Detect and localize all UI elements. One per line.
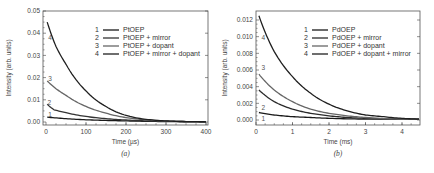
y-tick-label: 0.04 <box>27 29 40 36</box>
legend-index: 1 <box>304 26 308 33</box>
panel-caption: (a) <box>121 149 130 158</box>
x-tick-label: 1 <box>291 128 295 135</box>
curve-label: 1 <box>48 111 52 118</box>
legend-index: 1 <box>95 26 99 33</box>
curve-label: 1 <box>261 115 265 122</box>
legend-index: 3 <box>95 42 99 49</box>
legend-index: 4 <box>95 50 99 57</box>
curve-label: 4 <box>48 34 52 41</box>
series-line-3 <box>259 74 419 119</box>
y-axis-title: Intensity (arb. units) <box>221 39 229 96</box>
y-tick-label: 0.004 <box>237 83 254 90</box>
x-axis: 01234 <box>254 122 411 135</box>
legend-label: PtOEP + mirror <box>123 34 171 41</box>
curve-label: 3 <box>261 64 265 71</box>
decay-chart-b: 0.0000.0020.0040.0060.0080.0100.012Inten… <box>217 0 434 173</box>
y-tick-label: 0.012 <box>237 16 254 23</box>
x-tick-label: 300 <box>161 128 172 135</box>
curve-label: 3 <box>48 75 52 82</box>
x-axis-title: Time (µs) <box>112 138 139 146</box>
x-tick-label: 0 <box>44 128 48 135</box>
legend-index: 3 <box>304 42 308 49</box>
legend: 1PdOEP2PdOEP + mirror3PdOEP + dopant4PdO… <box>304 26 411 58</box>
legend-label: PtOEP + dopant <box>123 42 174 50</box>
legend-label: PtOEP + mirror + dopant <box>123 50 200 58</box>
x-tick-label: 0 <box>254 128 258 135</box>
curve-label: 2 <box>47 99 51 106</box>
y-tick-label: 0.03 <box>27 52 40 59</box>
legend-label: PdOEP + dopant + mirror <box>332 50 412 58</box>
y-tick-label: 0.006 <box>237 66 254 73</box>
legend-index: 2 <box>304 34 308 41</box>
x-tick-label: 4 <box>400 128 404 135</box>
y-tick-label: 0.00 <box>27 118 40 125</box>
y-tick-label: 0.02 <box>27 74 40 81</box>
y-tick-label: 0.008 <box>237 50 254 57</box>
y-tick-label: 0.01 <box>27 96 40 103</box>
x-axis: 0100200300400 <box>44 122 212 135</box>
legend-label: PdOEP <box>332 26 356 33</box>
y-axis-title: Intensity (arb. units) <box>5 39 13 96</box>
y-axis: 0.000.010.020.030.040.05 <box>27 7 208 125</box>
panel-caption: (b) <box>334 149 343 158</box>
x-tick-label: 2 <box>327 128 331 135</box>
x-tick-label: 400 <box>201 128 212 135</box>
y-tick-label: 0.05 <box>27 7 40 14</box>
x-tick-label: 100 <box>81 128 92 135</box>
legend: 1PtOEP2PtOEP + mirror3PtOEP + dopant4PtO… <box>95 26 200 58</box>
legend-index: 4 <box>304 50 308 57</box>
y-tick-label: 0.000 <box>237 116 254 123</box>
decay-chart-a: 0.000.010.020.030.040.05Intensity (arb. … <box>0 0 217 173</box>
x-axis-title: Time (ms) <box>323 138 352 146</box>
legend-label: PdOEP + dopant <box>332 42 385 50</box>
y-tick-label: 0.010 <box>237 33 254 40</box>
chart-panel-a: 0.000.010.020.030.040.05Intensity (arb. … <box>0 0 217 173</box>
x-tick-label: 3 <box>364 128 368 135</box>
legend-label: PdOEP + mirror <box>332 34 382 41</box>
legend-label: PtOEP <box>123 26 145 33</box>
chart-panel-b: 0.0000.0020.0040.0060.0080.0100.012Inten… <box>217 0 434 173</box>
curve-label: 4 <box>261 34 265 41</box>
y-tick-label: 0.002 <box>237 100 254 107</box>
curve-label: 2 <box>261 104 265 111</box>
legend-index: 2 <box>95 34 99 41</box>
x-tick-label: 200 <box>121 128 132 135</box>
